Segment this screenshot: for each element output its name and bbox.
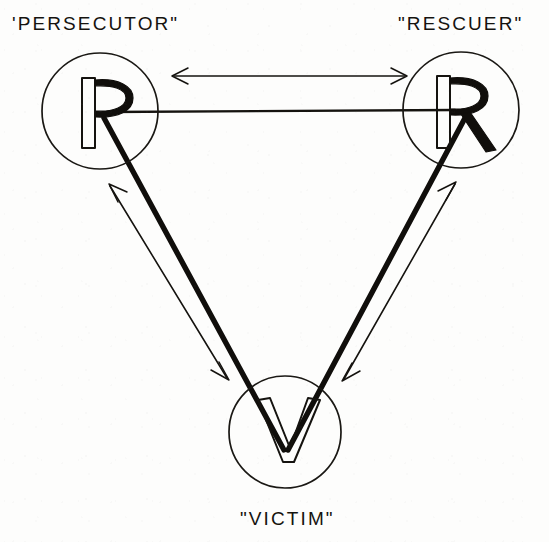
drama-triangle-diagram: 'PERSECUTOR" "RESCUER" "VICTIM" [0,0,549,542]
label-victim: "VICTIM" [240,508,335,529]
node-circle-victim [229,376,341,488]
label-rescuer: "RESCUER" [398,13,523,34]
arrow-persecutor-rescuer [172,68,407,84]
diagram-canvas: 'PERSECUTOR" "RESCUER" "VICTIM" [0,0,549,542]
thick-link-rescuer-victim [288,118,465,450]
label-persecutor: 'PERSECUTOR" [12,13,179,34]
arrow-rescuer-victim [342,182,456,381]
glyph-letter-r [437,76,496,152]
arrow-persecutor-victim [109,184,229,380]
thick-link-persecutor-victim [104,118,284,450]
